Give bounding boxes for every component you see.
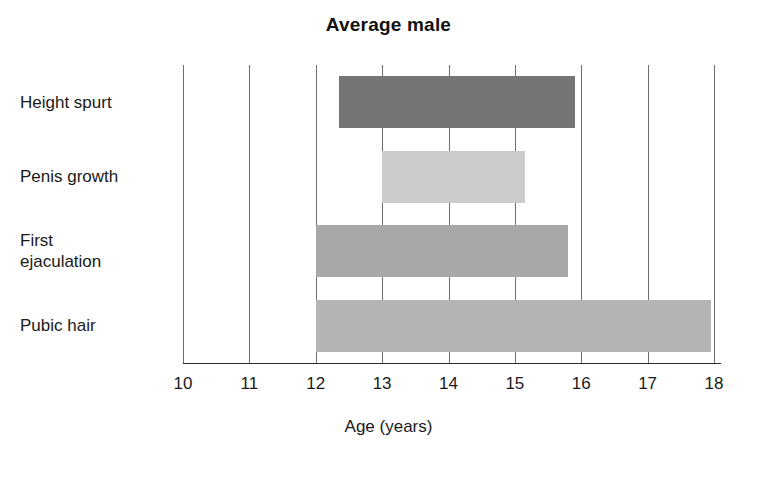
gridline-11 — [249, 65, 250, 363]
x-tick-12: 12 — [296, 374, 336, 394]
bar-height-spurt[interactable] — [339, 76, 575, 128]
x-tick-10: 10 — [163, 374, 203, 394]
x-tick-14: 14 — [429, 374, 469, 394]
category-axis-labels: Height spurtPenis growthFirst ejaculatio… — [45, 0, 180, 478]
x-tick-15: 15 — [495, 374, 535, 394]
chart-figure: Average male Height spurtPenis growthFir… — [0, 0, 777, 478]
x-tick-11: 11 — [229, 374, 269, 394]
x-tick-13: 13 — [362, 374, 402, 394]
bar-first-ejaculation[interactable] — [316, 225, 568, 277]
x-tick-17: 17 — [628, 374, 668, 394]
bar-pubic-hair[interactable] — [316, 300, 711, 352]
category-label-first-ejaculation: First ejaculation — [20, 230, 180, 272]
gridline-18 — [714, 65, 715, 363]
category-label-height-spurt: Height spurt — [20, 92, 180, 113]
category-label-penis-growth: Penis growth — [20, 166, 180, 187]
gridline-10 — [183, 65, 184, 363]
bar-penis-growth[interactable] — [382, 151, 525, 203]
category-label-pubic-hair: Pubic hair — [20, 315, 180, 336]
x-tick-16: 16 — [561, 374, 601, 394]
x-axis-line — [183, 363, 721, 364]
plot-area — [183, 65, 714, 363]
x-axis-title: Age (years) — [0, 417, 777, 437]
x-tick-18: 18 — [694, 374, 734, 394]
